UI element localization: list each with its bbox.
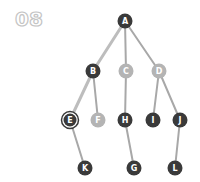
tree-node-b[interactable]: B: [86, 64, 101, 79]
tree-node-k[interactable]: K: [78, 161, 93, 176]
node-label: F: [95, 116, 100, 125]
node-label: A: [122, 17, 129, 26]
edge-a-b: [93, 21, 125, 71]
tree-node-j[interactable]: J: [173, 113, 188, 128]
node-label: K: [82, 164, 89, 173]
tree-node-c[interactable]: C: [119, 64, 134, 79]
tree-edges: [70, 21, 180, 168]
node-label: E: [67, 116, 72, 125]
edge-d-j: [159, 71, 180, 120]
node-label: J: [178, 116, 182, 125]
edge-a-c: [125, 21, 126, 71]
tree-node-h[interactable]: H: [118, 113, 133, 128]
tree-node-d[interactable]: D: [152, 64, 167, 79]
node-label: I: [152, 116, 155, 125]
tree-node-g[interactable]: G: [127, 161, 142, 176]
node-label: B: [90, 67, 96, 76]
node-label: C: [123, 67, 129, 76]
edge-a-d: [125, 21, 159, 71]
tree-node-i[interactable]: I: [146, 113, 161, 128]
tree-node-a[interactable]: A: [118, 14, 133, 29]
tree-node-e[interactable]: E: [62, 112, 79, 129]
node-label: L: [172, 164, 177, 173]
tree-node-l[interactable]: L: [168, 161, 183, 176]
tree-diagram: ABCDEFHIJKGL: [0, 0, 200, 182]
tree-node-f[interactable]: F: [91, 113, 106, 128]
node-label: H: [122, 116, 129, 125]
node-label: G: [131, 164, 138, 173]
node-label: D: [156, 67, 163, 76]
